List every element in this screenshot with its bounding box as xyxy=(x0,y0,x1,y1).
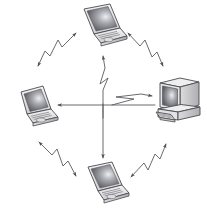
network-diagram: Wireless Ad-hoc Network Topology xyxy=(0,0,207,210)
link-center-to-top xyxy=(100,56,108,118)
diagram-canvas: Laptop Laptop xyxy=(0,0,207,210)
laptop-trackpad xyxy=(37,118,46,122)
desktop-right[interactable]: Desktop Computer xyxy=(156,78,200,122)
laptop-trackpad xyxy=(107,195,116,199)
laptop-left[interactable]: Laptop xyxy=(21,86,58,126)
links-layer xyxy=(38,33,166,177)
wireless-link-bottom-right xyxy=(131,144,166,177)
laptop-top[interactable]: Laptop xyxy=(84,4,127,46)
laptop-bottom[interactable]: Laptop xyxy=(88,162,129,203)
link-left-to-right-zigzag xyxy=(112,94,152,105)
laptop-trackpad xyxy=(104,38,113,42)
wireless-link-top-left xyxy=(38,33,76,66)
monitor-screen xyxy=(163,86,178,108)
wireless-link-left-bottom xyxy=(39,142,76,176)
wireless-link-top-right xyxy=(128,33,163,66)
